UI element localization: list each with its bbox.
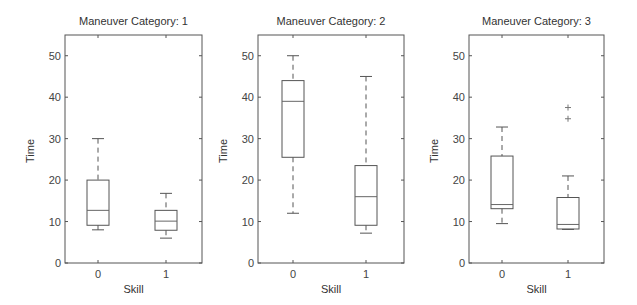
y-tick-label: 40 bbox=[242, 91, 254, 103]
iqr-box bbox=[87, 180, 109, 225]
y-tick-label: 40 bbox=[453, 91, 465, 103]
x-tick-label: 1 bbox=[363, 268, 369, 280]
y-axis-label: Time bbox=[428, 139, 440, 163]
y-tick-label: 20 bbox=[49, 174, 61, 186]
axes-frame bbox=[65, 35, 202, 263]
box-skill-0 bbox=[282, 56, 304, 214]
panel-title: Maneuver Category: 3 bbox=[482, 15, 591, 27]
iqr-box bbox=[155, 210, 177, 230]
box-skill-1 bbox=[155, 193, 177, 238]
y-tick-label: 30 bbox=[453, 133, 465, 145]
y-tick-label: 20 bbox=[242, 174, 254, 186]
x-tick-label: 1 bbox=[163, 268, 169, 280]
panel-maneuver-category-3: 0102030405001Maneuver Category: 3SkillTi… bbox=[428, 15, 604, 295]
y-tick-label: 0 bbox=[248, 257, 254, 269]
y-tick-label: 20 bbox=[453, 174, 465, 186]
y-tick-label: 30 bbox=[49, 133, 61, 145]
panel-maneuver-category-1: 0102030405001Maneuver Category: 1SkillTi… bbox=[24, 15, 202, 295]
x-axis-label: Skill bbox=[526, 283, 546, 295]
y-tick-label: 40 bbox=[49, 91, 61, 103]
x-tick-label: 1 bbox=[565, 268, 571, 280]
y-axis-label: Time bbox=[24, 139, 36, 163]
panel-title: Maneuver Category: 1 bbox=[79, 15, 188, 27]
boxplot-figure: 0102030405001Maneuver Category: 1SkillTi… bbox=[0, 0, 637, 305]
y-axis-label: Time bbox=[217, 139, 229, 163]
y-tick-label: 10 bbox=[49, 216, 61, 228]
y-tick-label: 50 bbox=[453, 50, 465, 62]
panel-maneuver-category-2: 0102030405001Maneuver Category: 2SkillTi… bbox=[217, 15, 404, 295]
y-tick-label: 50 bbox=[242, 50, 254, 62]
x-axis-label: Skill bbox=[321, 283, 341, 295]
box-skill-1 bbox=[355, 76, 377, 233]
x-tick-label: 0 bbox=[95, 268, 101, 280]
axes-frame bbox=[258, 35, 404, 263]
x-tick-label: 0 bbox=[290, 268, 296, 280]
panel-title: Maneuver Category: 2 bbox=[277, 15, 386, 27]
y-tick-label: 30 bbox=[242, 133, 254, 145]
box-skill-0 bbox=[87, 139, 109, 230]
x-tick-label: 0 bbox=[499, 268, 505, 280]
iqr-box bbox=[491, 156, 513, 209]
x-axis-label: Skill bbox=[123, 283, 143, 295]
box-skill-1 bbox=[557, 105, 579, 230]
y-tick-label: 0 bbox=[55, 257, 61, 269]
iqr-box bbox=[282, 81, 304, 158]
y-tick-label: 10 bbox=[242, 216, 254, 228]
iqr-box bbox=[355, 166, 377, 226]
y-tick-label: 50 bbox=[49, 50, 61, 62]
y-tick-label: 0 bbox=[459, 257, 465, 269]
axes-frame bbox=[469, 35, 604, 263]
box-skill-0 bbox=[491, 127, 513, 224]
y-tick-label: 10 bbox=[453, 216, 465, 228]
